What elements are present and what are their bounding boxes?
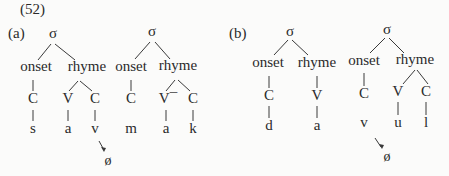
deletion-result: ø [105,154,112,168]
tree-branches [0,0,449,176]
segment: v [91,121,99,136]
onset-slot: C [28,91,38,106]
rhyme-node: rhyme [396,52,434,67]
segment: a [163,121,170,136]
segment: u [394,115,402,130]
panel-label-a: (a) [8,26,25,41]
rhyme-slot-v: V [312,88,323,103]
segment: d [265,118,273,133]
syllable-node: σ [286,24,294,39]
segment: k [189,121,197,136]
segment: a [65,121,72,136]
segment: s [30,121,36,136]
rhyme-node: rhyme [159,58,197,73]
onset-node: onset [20,59,52,74]
rhyme-slot-v: V [63,91,74,106]
segment: v [360,115,368,130]
rhyme-node: rhyme [68,59,106,74]
syllable-node: σ [49,26,57,41]
segment: a [314,118,321,133]
onset-slot: C [264,88,274,103]
onset-node: onset [252,55,284,70]
rhyme-node: rhyme [298,55,336,70]
syllable-node: σ [148,24,156,39]
rhyme-slot-c: C [90,91,100,106]
panel-label-b: (b) [229,26,247,41]
rhyme-slot-v-long: V¯ [159,91,177,106]
syllable-node: σ [383,22,391,37]
rhyme-slot-c: C [421,84,431,99]
onset-slot: C [359,86,369,101]
onset-node: onset [348,53,380,68]
deletion-result: ø [384,150,391,164]
onset-slot: C [126,91,136,106]
rhyme-slot-c: C [188,91,198,106]
segment: m [125,121,137,136]
example-number: (52) [20,2,45,17]
rhyme-slot-v: V [393,84,404,99]
onset-node: onset [115,59,147,74]
segment: l [424,115,428,130]
